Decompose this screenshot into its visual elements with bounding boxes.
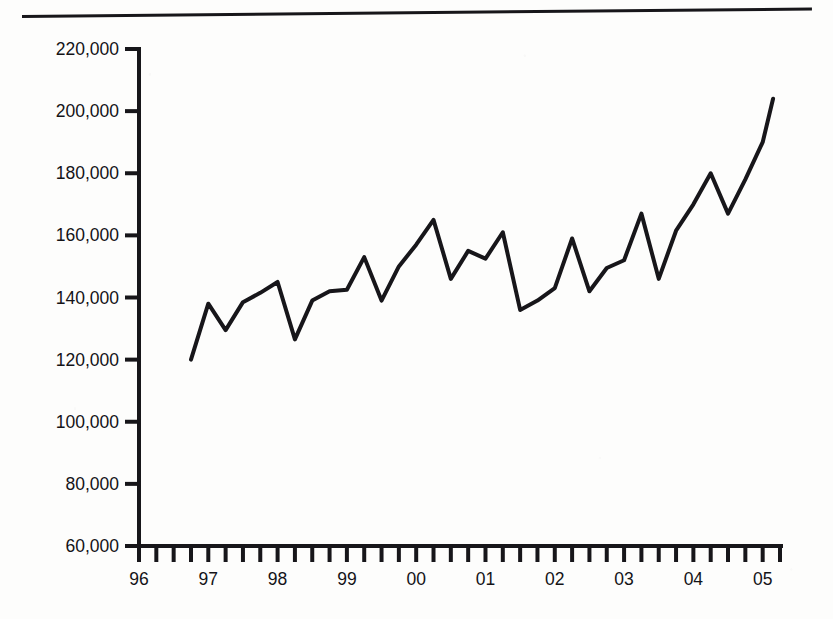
x-axis-tick-label: 96: [129, 569, 148, 589]
y-axis-tick-labels: 220,000200,000180,000160,000140,000120,0…: [56, 39, 120, 556]
line-chart: 220,000200,000180,000160,000140,000120,0…: [0, 0, 833, 619]
y-axis-tick-label: 100,000: [56, 412, 120, 432]
data-series-group: [191, 99, 773, 360]
x-axis-tick-label: 00: [406, 569, 426, 589]
x-axis-tick-label: 98: [268, 569, 287, 589]
y-axis-tick-label: 160,000: [56, 225, 120, 245]
x-axis-tick-labels: 96979899000102030405: [129, 569, 772, 589]
chart-page: 220,000200,000180,000160,000140,000120,0…: [0, 0, 833, 619]
series-line: [191, 99, 773, 360]
y-axis: 220,000200,000180,000160,000140,000120,0…: [56, 39, 139, 556]
x-axis-ticks: [139, 546, 780, 560]
x-axis: 96979899000102030405: [129, 546, 781, 589]
x-axis-tick-label: 03: [614, 569, 633, 589]
x-axis-tick-label: 05: [753, 569, 772, 589]
x-axis-tick-label: 02: [545, 569, 564, 589]
y-axis-tick-label: 220,000: [56, 39, 120, 59]
x-axis-tick-label: 97: [199, 569, 218, 589]
y-axis-tick-label: 180,000: [56, 163, 120, 183]
x-axis-tick-label: 99: [337, 569, 356, 589]
y-axis-tick-label: 140,000: [56, 288, 120, 308]
y-axis-tick-label: 200,000: [56, 101, 120, 121]
x-axis-tick-label: 01: [476, 569, 495, 589]
y-axis-tick-label: 120,000: [56, 350, 120, 370]
y-axis-tick-label: 60,000: [65, 536, 119, 556]
y-axis-tick-label: 80,000: [65, 474, 119, 494]
x-axis-tick-label: 04: [684, 569, 704, 589]
